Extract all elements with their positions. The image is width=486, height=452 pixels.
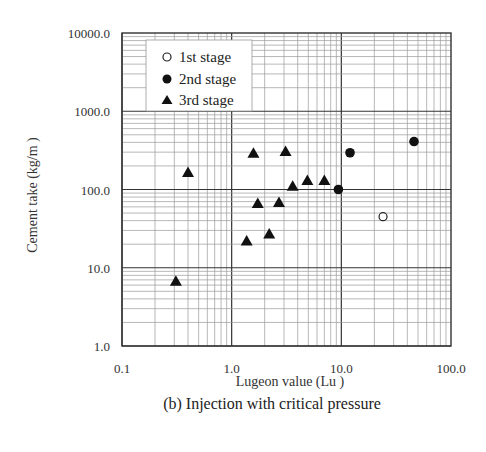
filled-triangle-marker [318, 175, 330, 186]
legend: 1st stage 2nd stage 3rd stage [146, 40, 252, 111]
filled-triangle-marker [301, 175, 313, 186]
filled-triangle-marker [170, 275, 182, 286]
filled-circle-marker [334, 185, 344, 195]
filled-triangle-marker [287, 180, 299, 191]
x-tick-label: 0.1 [114, 361, 130, 376]
legend-label-2nd-stage: 2nd stage [179, 71, 236, 87]
y-tick-label: 100.0 [81, 183, 110, 198]
filled-circle-icon [163, 75, 172, 84]
y-tick-label: 1000.0 [74, 104, 110, 119]
x-tick-label: 100.0 [436, 361, 465, 376]
filled-triangle-marker [182, 166, 194, 177]
filled-triangle-marker [241, 235, 253, 246]
legend-label-1st-stage: 1st stage [179, 49, 231, 65]
filled-circle-marker [409, 137, 419, 147]
y-axis-ticks: 1.010.0100.01000.010000.0 [68, 26, 110, 354]
filled-circle-marker [345, 148, 355, 158]
scatter-chart: 1.010.0100.01000.010000.0 0.11.010.0100.… [0, 0, 486, 452]
legend-label-3rd-stage: 3rd stage [179, 92, 234, 108]
y-axis-label: Cement take (kg/m ) [25, 137, 41, 253]
filled-triangle-marker [247, 147, 259, 158]
y-tick-label: 10.0 [87, 261, 110, 276]
y-tick-label: 10000.0 [68, 26, 110, 41]
y-tick-label: 1.0 [94, 339, 110, 354]
chart-caption: (b) Injection with critical pressure [163, 395, 381, 413]
filled-triangle-marker [280, 146, 292, 157]
x-axis-label: Lugeon value (Lu ) [236, 374, 345, 390]
open-circle-marker [379, 213, 387, 221]
filled-triangle-marker [252, 198, 264, 209]
open-circle-icon [163, 53, 171, 61]
